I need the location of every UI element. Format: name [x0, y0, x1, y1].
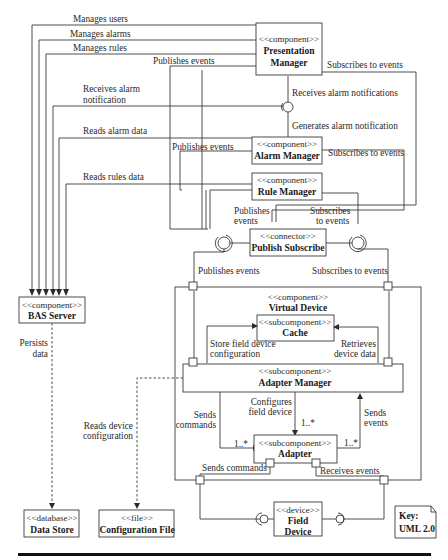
cache-stereotype: <<subcomponent>>: [259, 317, 332, 327]
adapter-manager-stereotype: <<subcomponent>>: [259, 366, 332, 376]
label-mult-left: 1..*: [234, 439, 248, 449]
label-configures-1: Configures: [251, 397, 293, 407]
adapter-stereotype: <<subcomponent>>: [259, 438, 332, 448]
label-mult-top: 1..*: [301, 418, 315, 428]
am-port-left: [189, 358, 197, 366]
key-version: UML 2.0: [399, 524, 435, 534]
label-rm-publishes-1: Publishes: [234, 206, 270, 216]
label-rm-subscribes-1: Subscribes: [310, 206, 351, 216]
fd-left-line: [200, 484, 260, 519]
pubsub-left-interface: [215, 235, 250, 252]
adapter-name: Adapter: [278, 449, 313, 459]
key-label: Key:: [399, 511, 419, 521]
field-device-stereotype: <<device>>: [276, 505, 320, 515]
bas-server-stereotype: <<component>>: [22, 300, 82, 310]
adapter-port-events: [312, 459, 320, 467]
presentation-manager-name-2: Manager: [271, 58, 309, 68]
field-device-name-2: Device: [285, 527, 312, 537]
label-manages-users: Manages users: [73, 14, 128, 24]
label-reads-device-config-1: Reads device: [84, 421, 133, 431]
label-reads-alarm-data: Reads alarm data: [83, 126, 147, 136]
vd-port-publish: [189, 282, 197, 290]
fd-right-interface-icon: [336, 515, 344, 523]
alarm-manager-stereotype: <<component>>: [257, 139, 317, 149]
bottom-rule: [18, 553, 431, 556]
label-store-config-2: configuration: [210, 349, 260, 359]
publish-subscribe-stereotype: <<connector>>: [260, 231, 316, 241]
adapter-port-commands: [266, 459, 274, 467]
data-store-stereotype: <<database>>: [26, 513, 77, 523]
rule-manager-stereotype: <<component>>: [257, 175, 317, 185]
label-retrieves-1: Retrieves: [341, 339, 376, 349]
label-vd-subscribes-to-events: Subscribes to events: [312, 266, 388, 276]
label-am-publishes-events: Publishes events: [172, 142, 234, 152]
label-mult-right: 1..*: [344, 438, 358, 448]
label-sends-commands-1: Sends: [194, 410, 217, 420]
virtual-device-stereotype: <<component>>: [268, 292, 328, 302]
fd-right-line: [344, 484, 384, 519]
label-pm-subscribes-to-events: Subscribes to events: [327, 60, 403, 70]
alarm-notification-interface-icon: [283, 102, 293, 112]
label-reads-device-config-2: configuration: [83, 431, 133, 441]
label-persists-2: data: [33, 349, 48, 359]
alarm-manager-name: Alarm Manager: [254, 151, 320, 161]
label-configures-2: field device: [248, 407, 292, 417]
label-sends-events-2: events: [364, 418, 388, 428]
label-sends-events-1: Sends: [364, 408, 387, 418]
adapter-manager-name: Adapter Manager: [259, 378, 333, 388]
configuration-file-name: Configuration File: [99, 525, 174, 535]
label-adapter-sends-commands: Sends commands: [202, 463, 267, 473]
label-sends-commands-2: commands: [176, 420, 217, 430]
fd-left-interface-icon: [260, 515, 268, 523]
vd-port-subscribe: [384, 282, 392, 290]
label-pm-publishes-events: Publishes events: [153, 56, 215, 66]
field-device-name-1: Field: [288, 516, 309, 526]
label-reads-rules-data: Reads rules data: [83, 172, 144, 182]
label-receives-alarm-notifications: Receives alarm notifications: [292, 88, 398, 98]
component-diagram: Manages users Manages alarms Manages rul…: [0, 0, 448, 560]
bas-server-name: BAS Server: [28, 311, 77, 321]
label-manages-alarms: Manages alarms: [70, 29, 131, 39]
label-receives-alarm-notification-2: notification: [83, 95, 126, 105]
label-retrieves-2: device data: [334, 349, 376, 359]
am-port-right: [384, 358, 392, 366]
presentation-manager-name-1: Presentation: [263, 46, 315, 56]
cache-name: Cache: [282, 328, 307, 338]
vd-port-bottom-right: [380, 476, 388, 484]
label-persists-1: Persists: [20, 338, 49, 348]
label-manages-rules: Manages rules: [73, 43, 127, 53]
vd-port-bottom-left: [196, 476, 204, 484]
label-adapter-receives-events: Receives events: [320, 466, 380, 476]
virtual-device-name: Virtual Device: [269, 303, 327, 313]
label-store-config-1: Store field device: [210, 339, 276, 349]
label-rm-publishes-2: events: [234, 216, 258, 226]
configuration-file-stereotype: <<file>>: [121, 513, 153, 523]
label-am-subscribes-to-events: Subscribes to events: [328, 148, 404, 158]
label-vd-publishes-events: Publishes events: [198, 266, 260, 276]
label-receives-alarm-notification-1: Receives alarm: [83, 84, 141, 94]
data-store-name: Data Store: [30, 525, 73, 535]
label-generates-alarm-notification: Generates alarm notification: [292, 121, 398, 131]
presentation-manager-stereotype: <<component>>: [259, 34, 319, 44]
rule-manager-name: Rule Manager: [258, 187, 317, 197]
label-rm-subscribes-2: to events: [316, 216, 350, 226]
publish-subscribe-name: Publish Subscribe: [251, 243, 324, 253]
